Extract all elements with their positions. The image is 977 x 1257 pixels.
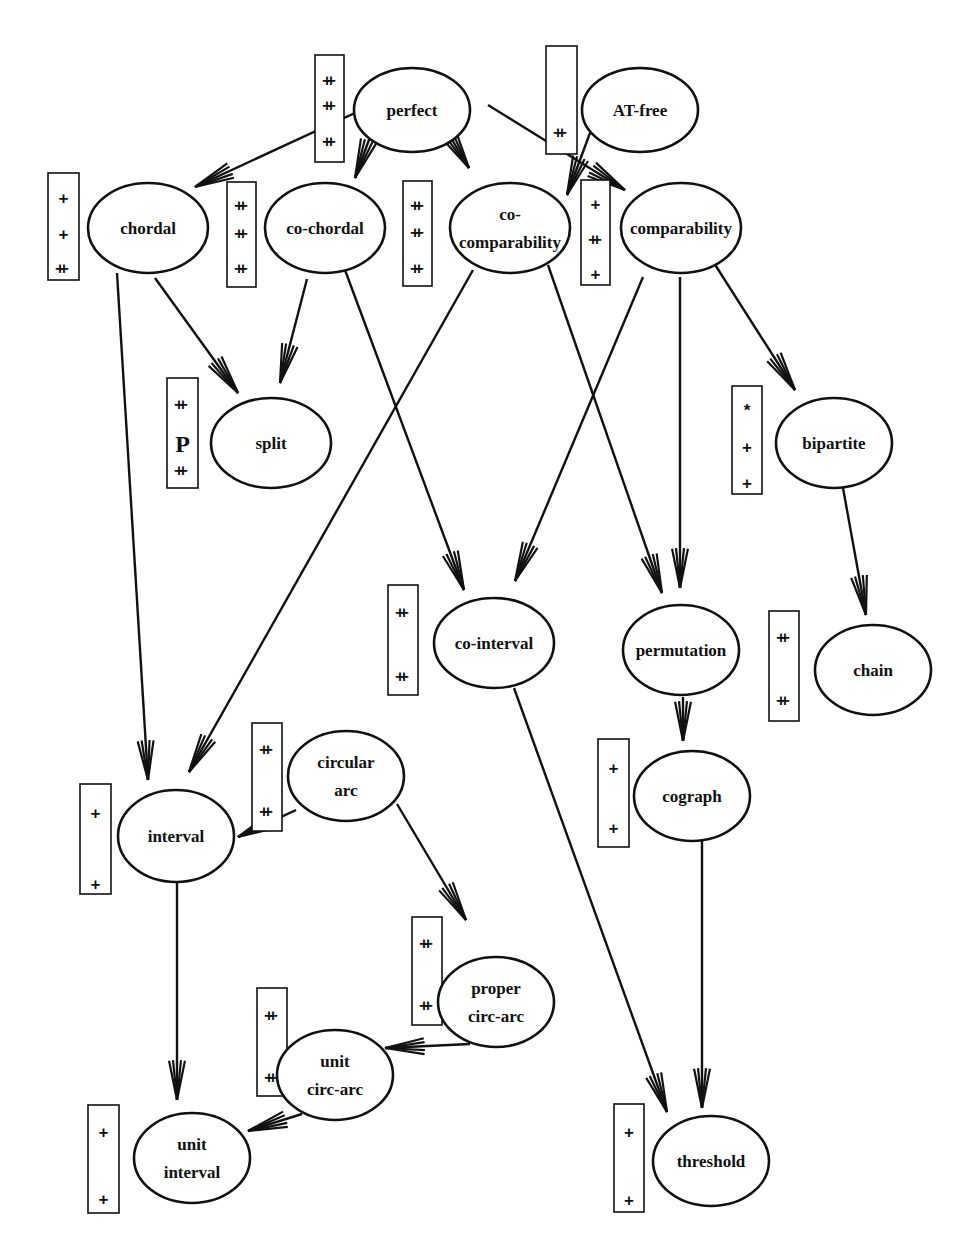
node-label: chordal: [120, 219, 176, 238]
property-box-frame: [546, 46, 577, 154]
property-box-co-comparability: ++++++: [403, 181, 432, 286]
property-box-frame: [388, 585, 418, 695]
plus-mark: +: [591, 265, 601, 284]
edge-co-comparability-to-interval: [189, 270, 473, 772]
node-label: interval: [164, 1163, 221, 1182]
node-label: comparability: [630, 219, 732, 238]
plus-mark: +: [742, 474, 752, 493]
plus-mark: +: [624, 1123, 634, 1142]
node-comparability: comparability: [621, 183, 741, 273]
asterisk-mark: *: [744, 401, 751, 420]
property-box-unit-interval: ++: [88, 1105, 119, 1213]
property-box-split: ++P++: [167, 378, 198, 488]
property-box-bipartite: *++: [732, 386, 762, 494]
node-proper-circ-arc: propercirc-arc: [438, 957, 554, 1047]
edge-chordal-to-split: [155, 278, 238, 393]
node-label: bipartite: [802, 434, 866, 453]
property-box-cograph: ++: [598, 739, 629, 847]
node-chordal: chordal: [88, 183, 208, 273]
plus-mark: +: [742, 438, 752, 457]
plus-mark: +: [609, 819, 619, 838]
edge-comparability-to-bipartite: [714, 263, 795, 390]
edge-comparability-to-co-interval: [515, 277, 643, 581]
node-perfect: perfect: [354, 68, 470, 152]
arrowhead-icon: [646, 1072, 667, 1112]
arrowhead-icon: [767, 353, 795, 390]
property-box-frame: [769, 611, 799, 721]
plus-mark: +: [91, 875, 101, 894]
plus-mark: +: [99, 1123, 109, 1142]
node-label: unit: [320, 1052, 350, 1071]
edge-line: [117, 273, 148, 780]
plus-mark: +: [99, 1190, 109, 1209]
node-label: AT-free: [613, 101, 668, 120]
edge-perfect-to-co-chordal: [355, 137, 376, 178]
property-box-co-chordal: ++++++: [227, 182, 256, 287]
node-unit-interval: unitinterval: [134, 1113, 250, 1203]
node-ellipse: [277, 1030, 393, 1120]
property-box-circular-arc: ++++: [252, 723, 282, 831]
plus-mark: +: [609, 759, 619, 778]
node-threshold: threshold: [653, 1116, 769, 1206]
property-box-interval: ++: [80, 784, 111, 894]
arrowhead-icon: [443, 550, 464, 590]
arrowhead-icon: [642, 553, 662, 593]
node-bipartite: bipartite: [776, 398, 892, 488]
node-co-chordal: co-chordal: [265, 183, 385, 273]
arrowhead-icon: [189, 734, 215, 772]
edge-co-comparability-to-permutation: [548, 265, 662, 593]
node-label: comparability: [459, 233, 561, 252]
edge-unit-circ-arc-to-unit-interval: [248, 1112, 302, 1131]
edge-line: [843, 488, 866, 615]
edge-line: [714, 263, 795, 390]
edge-comparability-to-permutation: [672, 277, 688, 588]
property-box-at-free: ++: [546, 46, 577, 154]
node-label: circular: [317, 753, 375, 772]
node-circular-arc: circulararc: [288, 731, 404, 821]
arrowhead-icon: [439, 882, 466, 920]
node-label: cograph: [662, 787, 722, 806]
property-box-chain: ++++: [769, 611, 799, 721]
node-label: co-interval: [455, 634, 534, 653]
edge-interval-to-unit-interval: [169, 882, 185, 1100]
edge-co-interval-to-threshold: [514, 688, 667, 1112]
node-chain: chain: [815, 625, 931, 715]
edge-circular-arc-to-proper-circ-arc: [397, 804, 466, 920]
edge-line: [397, 804, 466, 920]
edge-line: [280, 279, 307, 383]
plus-mark: +: [59, 225, 69, 244]
graph-class-hierarchy-diagram: ++++++++++++++++++++++++++++++P++*++++++…: [0, 0, 977, 1257]
node-label: perfect: [387, 101, 438, 120]
plus-mark: +: [624, 1191, 634, 1210]
property-box-frame: [252, 723, 282, 831]
node-label: interval: [148, 827, 205, 846]
property-box-perfect: ++++++: [315, 55, 344, 162]
node-cograph: cograph: [634, 751, 750, 841]
node-ellipse: [438, 957, 554, 1047]
node-label: arc: [334, 781, 358, 800]
plus-mark: +: [59, 189, 69, 208]
p-mark: P: [175, 431, 190, 457]
node-label: chain: [853, 661, 893, 680]
edge-permutation-to-cograph: [675, 697, 691, 741]
arrowhead-icon: [355, 138, 376, 178]
arrowhead-icon: [209, 357, 238, 393]
edge-chordal-to-interval: [117, 273, 154, 780]
arrowhead-icon: [515, 542, 538, 581]
plus-mark: +: [91, 804, 101, 823]
node-ellipse: [288, 731, 404, 821]
plus-mark: +: [591, 195, 601, 214]
node-label: proper: [471, 979, 521, 998]
node-unit-circ-arc: unitcirc-arc: [277, 1030, 393, 1120]
edge-line: [189, 270, 473, 772]
node-co-interval: co-interval: [434, 598, 554, 688]
node-ellipse: [450, 183, 570, 273]
node-split: split: [211, 398, 331, 488]
edge-line: [155, 278, 238, 393]
node-label: circ-arc: [307, 1080, 363, 1099]
node-interval: interval: [118, 790, 234, 882]
edge-line: [515, 277, 643, 581]
edge-co-chordal-to-split: [280, 279, 307, 383]
node-label: threshold: [677, 1152, 746, 1171]
edge-bipartite-to-chain: [843, 488, 867, 615]
